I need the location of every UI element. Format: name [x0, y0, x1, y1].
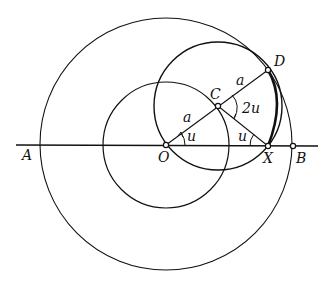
diagram-canvas: A O C D X B a a u u 2u: [0, 0, 329, 285]
label-angle-X: u: [238, 128, 247, 144]
label-segment-OC: a: [183, 109, 191, 125]
label-X: X: [262, 150, 274, 166]
label-segment-CD: a: [236, 72, 244, 88]
point-X: [265, 143, 270, 148]
point-B: [290, 143, 295, 148]
label-B: B: [295, 150, 306, 166]
geometry-figure: A O C D X B a a u u 2u: [0, 0, 329, 285]
label-angle-O: u: [187, 128, 196, 144]
angle-arrow-C: [231, 114, 236, 119]
label-O: O: [158, 149, 170, 165]
label-angle-C: 2u: [241, 100, 260, 116]
label-A: A: [20, 147, 32, 163]
point-D: [265, 67, 270, 72]
angle-arc-X: [250, 134, 254, 146]
label-D: D: [273, 53, 285, 69]
angle-arc-C: [232, 95, 237, 118]
point-C: [215, 103, 220, 108]
label-C: C: [210, 86, 221, 102]
point-O: [163, 142, 168, 147]
